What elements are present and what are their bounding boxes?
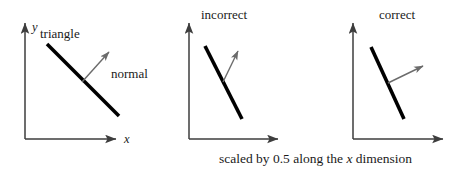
panel-1-x-axis-label: x	[124, 133, 130, 146]
panel-1-triangle-label: triangle	[40, 27, 80, 40]
panel-1-normal-vector	[82, 52, 109, 82]
caption-after: dimension	[352, 151, 412, 166]
panel-2-group	[189, 23, 278, 139]
panel-3-title: correct	[379, 8, 415, 21]
panel-2-triangle-edge	[205, 46, 242, 119]
panel-1-normal-label: normal	[111, 67, 148, 80]
panel-2-normal-vector	[223, 51, 238, 82]
panel-1-y-axis-label: y	[32, 21, 38, 34]
panel-2-title: incorrect	[201, 8, 247, 21]
figure-caption: scaled by 0.5 along the x dimension	[219, 151, 412, 167]
panel-3-group	[353, 23, 443, 139]
panel-3-triangle-edge	[371, 47, 404, 119]
panel-3-normal-vector	[388, 66, 423, 83]
caption-before: scaled by 0.5 along the	[219, 151, 346, 166]
normal-transformation-figure: y x triangle normal incorrect correct sc…	[0, 0, 469, 171]
